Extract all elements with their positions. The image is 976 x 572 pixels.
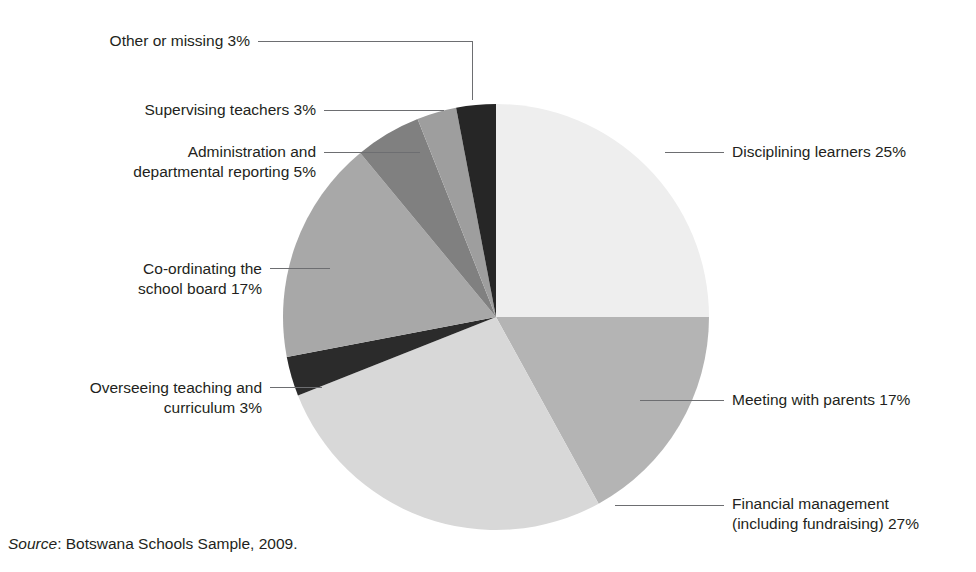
- callout-line-1: Financial management: [732, 494, 919, 514]
- callout-line-2: school board 17%: [138, 279, 262, 299]
- callout-line-1: Overseeing teaching and: [90, 378, 262, 398]
- callout-line-1: Supervising teachers 3%: [145, 100, 316, 120]
- callout-line-1: Disciplining learners 25%: [732, 142, 906, 162]
- callout-line-2: curriculum 3%: [90, 398, 262, 418]
- callout-other-or-missing: Other or missing 3%: [110, 31, 250, 51]
- callout-meeting-with-parents: Meeting with parents 17%: [732, 390, 910, 410]
- source-note: Source: Botswana Schools Sample, 2009.: [8, 534, 298, 554]
- callout-overseeing-teaching: Overseeing teaching and curriculum 3%: [90, 378, 262, 418]
- pie-slice-group: [283, 104, 709, 530]
- callout-line-1: Administration and: [133, 142, 316, 162]
- callout-line-2: departmental reporting 5%: [133, 162, 316, 182]
- callout-line-1: Meeting with parents 17%: [732, 390, 910, 410]
- callout-administration-reporting: Administration and departmental reportin…: [133, 142, 316, 182]
- callout-co-ordinating-school-board: Co-ordinating the school board 17%: [138, 259, 262, 299]
- callout-supervising-teachers: Supervising teachers 3%: [145, 100, 316, 120]
- callout-disciplining-learners: Disciplining learners 25%: [732, 142, 906, 162]
- source-text: : Botswana Schools Sample, 2009.: [57, 535, 297, 552]
- callout-financial-management: Financial management (including fundrais…: [732, 494, 919, 534]
- callout-line-1: Co-ordinating the: [138, 259, 262, 279]
- pie-chart-figure: ……………………………………………… Disciplining learners…: [0, 0, 976, 572]
- pie-slice-disciplining-learners: [496, 104, 709, 317]
- leader-line-other-or-missing: [258, 41, 472, 100]
- source-label: Source: [8, 535, 57, 552]
- callout-line-2: (including fundraising) 27%: [732, 514, 919, 534]
- callout-line-1: Other or missing 3%: [110, 31, 250, 51]
